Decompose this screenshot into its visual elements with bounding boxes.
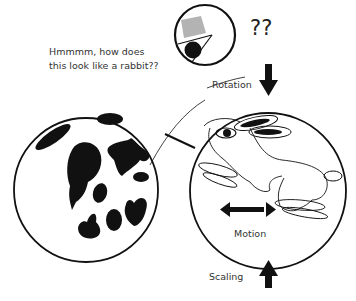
question-marks: ?? xyxy=(250,16,272,40)
scaling-label: Scaling xyxy=(209,271,243,282)
ambiguous-blob-circle xyxy=(14,113,158,262)
rabbit-circle xyxy=(190,113,346,269)
down-arrow-icon xyxy=(259,64,278,96)
caption-text: Hmmmm, how does this look like a rabbit?… xyxy=(49,45,159,73)
rotation-label: Rotation xyxy=(212,79,252,90)
inset-circle xyxy=(175,5,235,65)
rotation-handle xyxy=(165,134,195,148)
motion-label: Motion xyxy=(234,228,266,239)
caption-line-1: Hmmmm, how does xyxy=(49,45,159,59)
caption-line-2: this look like a rabbit?? xyxy=(49,59,159,73)
